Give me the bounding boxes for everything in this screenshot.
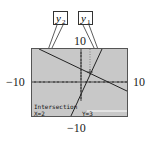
callout-y1-sub: 1 bbox=[87, 18, 91, 26]
callout-y2-label: y bbox=[56, 12, 61, 24]
callout-y2-sub: 2 bbox=[62, 18, 66, 26]
calculator-screen: Intersection X=2 Y=3 bbox=[31, 48, 128, 117]
line-y2 bbox=[39, 49, 128, 92]
callout-y1: y 1 bbox=[78, 11, 93, 25]
callout-y2: y 2 bbox=[53, 11, 68, 25]
y-min-label: −10 bbox=[67, 122, 86, 134]
x-min-label: −10 bbox=[6, 76, 25, 88]
callout-y1-label: y bbox=[81, 12, 86, 24]
y-readout: Y=3 bbox=[82, 111, 93, 117]
x-readout: X=2 bbox=[34, 111, 45, 117]
x-max-label: 10 bbox=[133, 76, 145, 88]
y-max-label: 10 bbox=[74, 35, 86, 47]
